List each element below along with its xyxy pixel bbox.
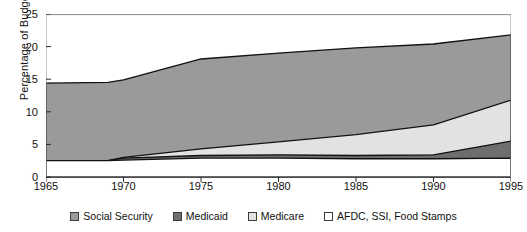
legend-item-medicare[interactable]: Medicare: [248, 210, 304, 222]
legend-label: Social Security: [83, 210, 152, 222]
legend-swatch-icon: [248, 212, 257, 221]
legend-swatch-icon: [173, 212, 182, 221]
y-tick-15: 15: [4, 73, 38, 85]
plot-area: [46, 14, 511, 177]
chart-legend: Social SecurityMedicaidMedicareAFDC, SSI…: [0, 205, 527, 227]
legend-label: Medicaid: [186, 210, 228, 222]
chart-figure: Percentage of Budget 0510152025 19651970…: [0, 0, 527, 232]
legend-item-medicaid[interactable]: Medicaid: [173, 210, 228, 222]
y-tick-10: 10: [4, 106, 38, 118]
legend-label: AFDC, SSI, Food Stamps: [337, 210, 457, 222]
y-tick-20: 20: [4, 41, 38, 53]
legend-label: Medicare: [261, 210, 304, 222]
legend-item-afdc-ssi-food-stamps[interactable]: AFDC, SSI, Food Stamps: [324, 210, 457, 222]
legend-swatch-icon: [324, 212, 333, 221]
stacked-area-plot: [46, 14, 511, 184]
area-band-afdc-ssi-food-stamps: [46, 158, 511, 177]
legend-item-social-security[interactable]: Social Security: [70, 210, 152, 222]
y-tick-25: 25: [4, 8, 38, 20]
y-tick-5: 5: [4, 138, 38, 150]
legend-swatch-icon: [70, 212, 79, 221]
